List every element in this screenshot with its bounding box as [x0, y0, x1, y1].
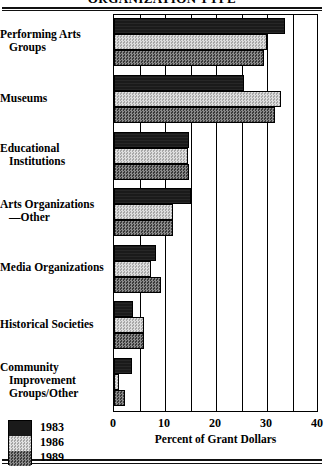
header-rule-thin: [2, 10, 322, 11]
category-label-line: Community: [0, 361, 108, 374]
legend-swatch-box: [8, 420, 32, 465]
legend: 198319861989: [8, 420, 100, 466]
bar-1989-cat4: [114, 277, 161, 293]
bar-1989-cat1: [114, 107, 275, 123]
x-tick-label-10: 10: [158, 416, 170, 431]
category-label-line: Institutions: [0, 155, 108, 168]
bar-1986-cat4: [114, 261, 151, 277]
x-tick-label-40: 40: [311, 416, 323, 431]
category-label-line: Performing Arts: [0, 28, 108, 41]
bar-1989-cat6: [114, 390, 125, 406]
bar-1983-cat0: [114, 18, 285, 34]
legend-swatch-1983: [9, 421, 31, 436]
x-tick-label-0: 0: [110, 416, 116, 431]
bar-1986-cat0: [114, 34, 267, 50]
category-label-4: Media Organizations: [0, 261, 108, 274]
bar-1986-cat6: [114, 374, 119, 390]
category-label-6: CommunityImprovementGroups/Other: [0, 361, 108, 400]
bar-1983-cat2: [114, 132, 189, 148]
legend-swatch-1986: [9, 436, 31, 451]
bar-1983-cat5: [114, 301, 133, 317]
x-tick-label-30: 30: [260, 416, 272, 431]
legend-label-1986: 1986: [40, 435, 64, 450]
category-label-line: Groups: [0, 41, 108, 54]
gridline-30: [267, 15, 268, 411]
bar-1989-cat2: [114, 164, 189, 180]
plot-area: [113, 14, 318, 412]
category-label-1: Museums: [0, 92, 108, 105]
category-label-0: Performing ArtsGroups: [0, 28, 108, 54]
bar-1989-cat3: [114, 220, 173, 236]
bar-1986-cat3: [114, 204, 173, 220]
x-tick-label-20: 20: [209, 416, 221, 431]
bar-1983-cat3: [114, 188, 191, 204]
legend-swatch-1989: [9, 451, 31, 466]
bar-1986-cat2: [114, 148, 188, 164]
bar-1989-cat0: [114, 50, 264, 66]
bar-1986-cat1: [114, 91, 281, 107]
bar-1983-cat6: [114, 358, 132, 374]
legend-label-1983: 1983: [40, 420, 64, 435]
category-label-line: Groups/Other: [0, 387, 108, 400]
category-label-line: Educational: [0, 142, 108, 155]
x-axis-title: Percent of Grant Dollars: [113, 433, 318, 445]
category-label-line: Historical Societies: [0, 318, 108, 331]
category-label-3: Arts Organizations—Other: [0, 198, 108, 224]
gridline-35: [293, 15, 294, 411]
category-label-line: Arts Organizations: [0, 198, 108, 211]
chart-title: ORGANIZATION TYPE: [0, 0, 324, 7]
category-label-line: Museums: [0, 92, 108, 105]
category-label-line: —Other: [0, 211, 108, 224]
bar-1989-cat5: [114, 333, 144, 349]
bar-1983-cat4: [114, 245, 156, 261]
bar-1983-cat1: [114, 75, 244, 91]
category-label-5: Historical Societies: [0, 318, 108, 331]
legend-label-1989: 1989: [40, 450, 64, 465]
category-label-line: Media Organizations: [0, 261, 108, 274]
category-label-line: Improvement: [0, 374, 108, 387]
category-label-2: EducationalInstitutions: [0, 142, 108, 168]
bar-1986-cat5: [114, 317, 144, 333]
header-rule-thick: [2, 7, 322, 9]
